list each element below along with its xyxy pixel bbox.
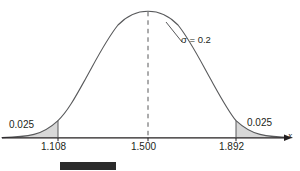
right-tail-area-label: 0.025 xyxy=(247,117,272,128)
redacted-caption-bar xyxy=(60,162,116,170)
tick-label-right-critical-value: 1.892 xyxy=(219,141,244,152)
sigma-annotation-label: σ = 0.2 xyxy=(181,34,211,45)
x-axis-label: x xyxy=(288,130,292,141)
caption-text-remnant xyxy=(120,163,292,170)
tick-label-mean: 1.500 xyxy=(131,141,156,152)
normal-distribution-figure: σ = 0.2 0.025 0.025 1.108 1.500 1.892 x xyxy=(0,0,300,171)
tick-label-left-critical-value: 1.108 xyxy=(41,141,66,152)
left-tail-area-label: 0.025 xyxy=(9,119,34,130)
sigma-leader-line xyxy=(166,22,182,42)
